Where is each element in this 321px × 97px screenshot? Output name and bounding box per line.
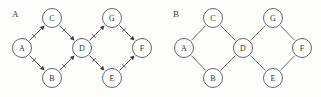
edge-shaft-undirected xyxy=(191,26,205,41)
node-b[interactable]: B xyxy=(204,69,223,88)
node-label-g: G xyxy=(109,14,115,23)
node-label-a: A xyxy=(181,44,187,53)
edge-c-d xyxy=(221,26,236,41)
edge-shaft-undirected xyxy=(280,26,294,41)
edge-c-d xyxy=(60,26,75,41)
edge-g-f xyxy=(120,26,135,41)
node-d[interactable]: D xyxy=(73,39,92,58)
node-d[interactable]: D xyxy=(234,39,253,58)
node-label-f: F xyxy=(140,44,145,53)
node-a[interactable]: A xyxy=(175,39,194,58)
node-f[interactable]: F xyxy=(133,39,152,58)
edge-shaft-undirected xyxy=(221,56,236,71)
node-e[interactable]: E xyxy=(264,69,283,88)
panel-label-a: A xyxy=(12,9,19,19)
node-label-e: E xyxy=(271,74,276,83)
figure-canvas: AACBDGEFBACBDGEF xyxy=(0,0,321,97)
edge-shaft-directed xyxy=(60,26,72,38)
node-a[interactable]: A xyxy=(13,39,32,58)
node-e[interactable]: E xyxy=(103,69,122,88)
edge-shaft-undirected xyxy=(251,26,266,41)
edge-d-g xyxy=(90,26,105,41)
edge-a-c xyxy=(30,26,45,41)
node-b[interactable]: B xyxy=(43,69,62,88)
edge-shaft-undirected xyxy=(280,56,294,71)
node-g[interactable]: G xyxy=(103,9,122,28)
node-label-f: F xyxy=(300,44,305,53)
edge-b-d xyxy=(60,56,75,71)
edge-shaft-directed xyxy=(30,56,42,68)
panel-a: AACBDGEF xyxy=(12,9,152,88)
node-c[interactable]: C xyxy=(204,9,223,28)
edge-b-d xyxy=(221,56,236,71)
edge-e-f xyxy=(280,56,294,71)
node-label-b: B xyxy=(49,74,54,83)
edge-e-f xyxy=(120,56,135,71)
node-label-e: E xyxy=(110,74,115,83)
edge-shaft-directed xyxy=(120,26,132,38)
edge-d-e xyxy=(251,56,266,71)
node-label-d: D xyxy=(79,44,85,53)
edge-a-b xyxy=(191,56,205,71)
panel-label-b: B xyxy=(173,9,179,19)
edge-shaft-directed xyxy=(120,59,132,71)
edge-a-b xyxy=(30,56,45,71)
edge-shaft-undirected xyxy=(221,26,236,41)
node-g[interactable]: G xyxy=(264,9,283,28)
panel-b: BACBDGEF xyxy=(173,9,312,88)
node-label-b: B xyxy=(210,74,215,83)
node-label-c: C xyxy=(210,14,215,23)
edge-shaft-directed xyxy=(60,59,72,71)
node-label-a: A xyxy=(19,44,25,53)
node-f[interactable]: F xyxy=(293,39,312,58)
graph-figure: AACBDGEFBACBDGEF xyxy=(0,0,321,97)
edge-shaft-directed xyxy=(90,56,102,68)
node-label-d: D xyxy=(240,44,246,53)
edge-shaft-undirected xyxy=(191,56,205,71)
edge-d-g xyxy=(251,26,266,41)
node-c[interactable]: C xyxy=(43,9,62,28)
edge-d-e xyxy=(90,56,105,71)
edge-shaft-directed xyxy=(90,29,102,41)
edge-shaft-undirected xyxy=(251,56,266,71)
edge-shaft-directed xyxy=(30,29,42,41)
node-label-c: C xyxy=(49,14,54,23)
edge-a-c xyxy=(191,26,205,41)
node-label-g: G xyxy=(270,14,276,23)
edge-g-f xyxy=(280,26,294,41)
